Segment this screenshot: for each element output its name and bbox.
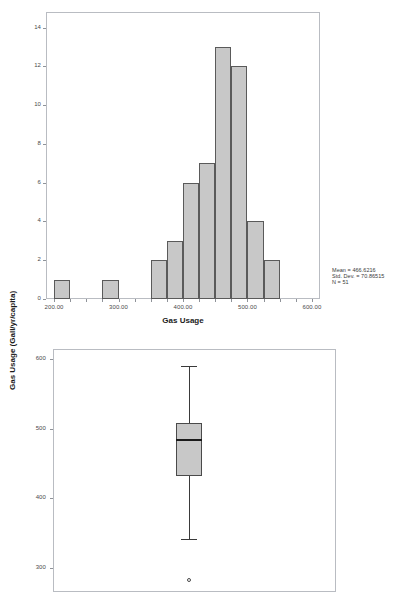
histogram-x-axis-title: Gas Usage [46,316,320,325]
histogram-bars-area [46,12,320,299]
histogram-bar [167,241,183,299]
histogram-x-tick-mark [199,299,200,302]
histogram-y-tick-label: 8 [30,140,41,146]
histogram-statistics-box: Mean = 466.6216 Std. Dev. = 70.86515 N =… [332,267,384,286]
histogram-x-tick-label: 600.00 [296,304,328,310]
histogram-y-tick-label: 4 [30,217,41,223]
boxplot-y-tick-label: 500 [30,425,46,431]
boxplot-upper-whisker [189,366,190,423]
histogram-bar [54,280,70,299]
histogram-x-tick-mark [264,299,265,302]
boxplot-upper-cap [181,366,197,367]
histogram-bar [102,280,118,299]
histogram-x-tick-mark [215,299,216,302]
histogram-y-tick-label: 0 [30,295,41,301]
histogram-x-tick-label: 400.00 [167,304,199,310]
histogram-y-tick-mark [43,299,46,300]
histogram-bar [247,221,263,299]
boxplot-y-tick-label: 300 [30,564,46,570]
histogram-y-tick-label: 14 [30,24,41,30]
histogram-bar [199,163,215,299]
histogram-bar [231,66,247,299]
boxplot-median-line [176,439,202,441]
histogram-y-tick-label: 2 [30,256,41,262]
histogram-x-tick-mark [70,299,71,302]
boxplot-glyph-area [53,349,336,592]
boxplot-lower-cap [181,539,197,540]
histogram-x-tick-mark [54,299,55,302]
histogram-x-tick-mark [296,299,297,302]
histogram-x-tick-label: 500.00 [231,304,263,310]
histogram-x-tick-mark [247,299,248,302]
histogram-x-tick-label: 200.00 [38,304,70,310]
histogram-bar [151,260,167,299]
histogram-x-tick-mark [231,299,232,302]
boxplot-lower-whisker [189,476,190,539]
histogram-bar [183,183,199,299]
histogram-x-tick-mark [167,299,168,302]
histogram-x-tick-mark [151,299,152,302]
statistic-n: N = 51 [332,279,384,285]
histogram-y-tick-label: 12 [30,62,41,68]
histogram-y-tick-label: 6 [30,179,41,185]
histogram-x-tick-mark [102,299,103,302]
histogram-y-tick-label: 10 [30,101,41,107]
histogram-x-tick-mark [135,299,136,302]
boxplot-y-tick-label: 400 [30,494,46,500]
boxplot-y-tick-label: 600 [30,355,46,361]
histogram-x-tick-mark [86,299,87,302]
boxplot-outlier-point [187,578,191,582]
boxplot-box [176,423,202,476]
histogram-bar [264,260,280,299]
histogram-x-tick-mark [183,299,184,302]
histogram-bar [215,47,231,299]
histogram-figure: Frequency of States 02468101214 200.0030… [0,0,410,340]
histogram-x-tick-mark [312,299,313,302]
histogram-x-tick-label: 300.00 [103,304,135,310]
histogram-x-tick-mark [119,299,120,302]
histogram-x-tick-mark [280,299,281,302]
